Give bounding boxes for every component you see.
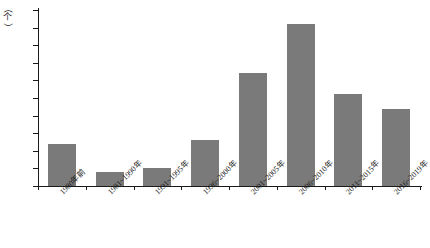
x-tick-mark — [372, 186, 373, 190]
x-tick-mark — [38, 186, 39, 190]
bar — [334, 94, 362, 186]
x-tick-mark — [229, 186, 230, 190]
plot-area — [38, 10, 420, 186]
x-tick-mark — [420, 186, 421, 190]
x-tick-mark — [325, 186, 326, 190]
x-tick-mark — [277, 186, 278, 190]
x-tick-mark — [134, 186, 135, 190]
bar — [239, 73, 267, 186]
x-tick-mark — [86, 186, 87, 190]
x-axis-line — [38, 186, 422, 187]
x-tick-mark — [181, 186, 182, 190]
bar — [287, 24, 315, 186]
y-unit-open-paren: （ — [3, 3, 12, 15]
